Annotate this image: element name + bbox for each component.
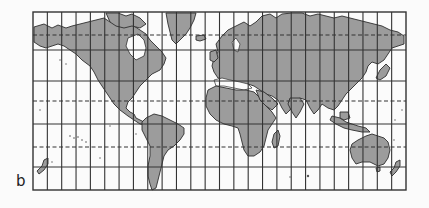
iceland — [196, 35, 206, 41]
madagascar — [272, 130, 280, 148]
japan — [376, 64, 390, 80]
greenland — [166, 13, 196, 44]
north-america — [34, 18, 166, 125]
world-map — [0, 0, 429, 208]
panel-label: b — [16, 172, 26, 190]
tasmania — [376, 167, 380, 172]
new-zealand-west — [37, 158, 48, 174]
australia — [350, 134, 390, 166]
